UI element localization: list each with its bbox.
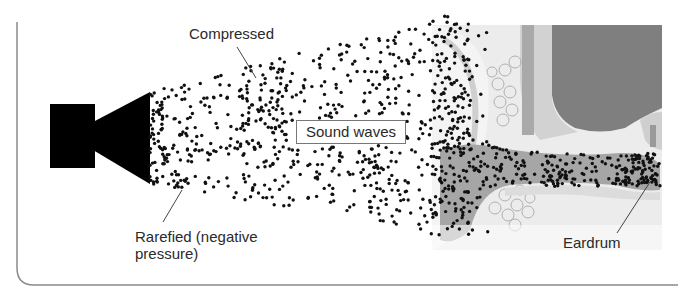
- compressed-label: Compressed: [189, 25, 274, 42]
- rarefied-label-line1: Rarefied (negative: [135, 228, 258, 245]
- sound-waves-label: Sound waves: [296, 120, 406, 144]
- compressed-leader-line: [237, 47, 256, 78]
- rarefied-label-line2: pressure): [135, 245, 198, 262]
- sound-wave-diagram: Compressed Sound waves Rarefied (negativ…: [0, 0, 678, 289]
- eardrum-label: Eardrum: [563, 234, 621, 251]
- rarefied-leader-line: [163, 190, 182, 222]
- loudspeaker-icon: [50, 92, 150, 184]
